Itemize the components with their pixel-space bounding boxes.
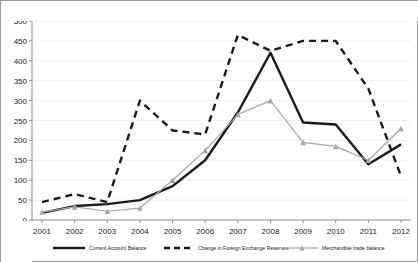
x-tick-label: 2003: [98, 227, 116, 236]
corner-mask: [1, 221, 32, 262]
x-tick-label: 2008: [262, 227, 280, 236]
line-chart: 0501001502002503003504004505002001200220…: [1, 1, 418, 262]
y-tick-label: 350: [14, 77, 28, 86]
y-tick-label: 50: [18, 196, 27, 205]
y-tick-label: 250: [14, 117, 28, 126]
x-tick-label: 2005: [164, 227, 182, 236]
legend-label-2: Merchandise trade balance: [322, 245, 385, 251]
y-tick-label: 300: [14, 97, 28, 106]
x-tick-label: 2010: [327, 227, 345, 236]
y-tick-label: 400: [14, 57, 28, 66]
x-tick-label: 2006: [196, 227, 214, 236]
x-tick-label: 2007: [229, 227, 247, 236]
legend-label-0: Current Account Balance: [89, 245, 146, 251]
x-tick-label: 2004: [131, 227, 149, 236]
y-tick-label: 150: [14, 156, 28, 165]
x-tick-label: 2011: [360, 227, 378, 236]
y-tick-label: 200: [14, 136, 28, 145]
legend-label-1: Change in Foreign Exchange Reserves: [198, 245, 289, 251]
chart-container: 0501001502002503003504004505002001200220…: [0, 0, 418, 262]
x-tick-label: 2012: [392, 227, 410, 236]
x-tick-label: 2009: [294, 227, 312, 236]
y-tick-label: 100: [14, 176, 28, 185]
y-tick-label: 450: [14, 37, 28, 46]
x-tick-label: 2002: [66, 227, 84, 236]
top-mask: [1, 1, 418, 21]
x-tick-label: 2001: [33, 227, 51, 236]
